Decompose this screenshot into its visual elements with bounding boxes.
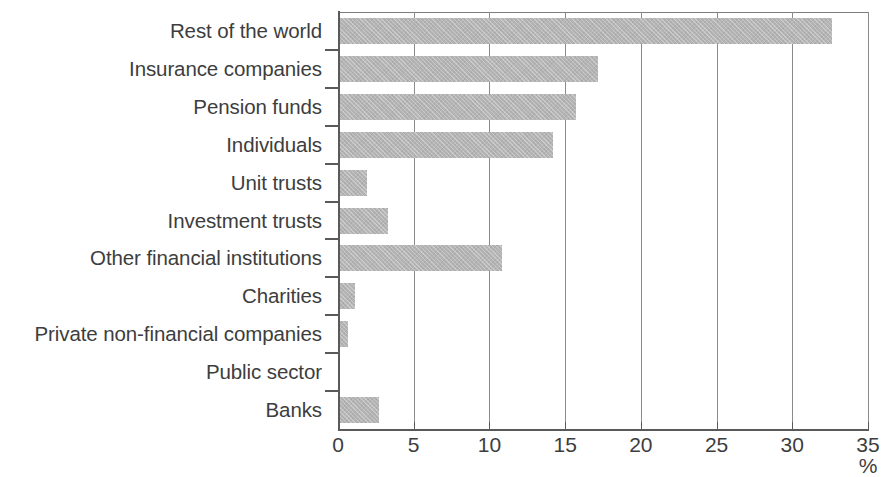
x-axis-tick-label: 25 [705, 434, 728, 455]
y-axis-tick [325, 352, 338, 354]
category-label: Investment trusts [168, 211, 322, 232]
x-axis-tick-label: 5 [408, 434, 420, 455]
x-axis-tick-label: 35 [856, 434, 879, 455]
category-label: Insurance companies [129, 59, 322, 80]
x-axis-tick-35 [868, 422, 869, 430]
y-axis-tick [325, 49, 338, 51]
y-axis-tick [325, 390, 338, 392]
plot-area [338, 12, 868, 429]
category-label: Rest of the world [170, 21, 322, 42]
category-label: Banks [266, 400, 322, 421]
gridline-30 [792, 12, 793, 429]
category-label-column: Rest of the worldInsurance companiesPens… [0, 0, 330, 429]
bar [338, 18, 832, 44]
bar [338, 132, 553, 158]
x-axis-tick-5 [414, 422, 415, 430]
x-axis-tick-label: 30 [781, 434, 804, 455]
bar [338, 283, 355, 309]
category-label: Other financial institutions [90, 248, 322, 269]
x-axis-tick-label: 10 [478, 434, 501, 455]
x-axis-tick-0 [338, 422, 339, 430]
gridline-25 [717, 12, 718, 429]
x-axis-tick-10 [489, 422, 490, 430]
x-axis-line [338, 429, 869, 431]
bar [338, 245, 502, 271]
bar [338, 94, 576, 120]
x-axis-tick-30 [792, 422, 793, 430]
gridline-20 [641, 12, 642, 429]
category-label: Pension funds [193, 97, 322, 118]
x-axis-tick-label: 0 [332, 434, 344, 455]
bar [338, 208, 388, 234]
x-axis-tick-label: 15 [553, 434, 576, 455]
x-axis-tick-label: 20 [629, 434, 652, 455]
category-label: Unit trusts [231, 173, 322, 194]
y-axis-tick [325, 276, 338, 278]
y-axis-tick [325, 125, 338, 127]
x-axis-tick-15 [565, 422, 566, 430]
y-axis-tick [325, 314, 338, 316]
bar [338, 397, 379, 423]
x-axis-tick-20 [641, 422, 642, 430]
category-label: Charities [242, 286, 322, 307]
bar [338, 56, 598, 82]
category-label: Private non-financial companies [35, 324, 322, 345]
category-label: Individuals [226, 135, 322, 156]
bar [338, 170, 367, 196]
y-axis-tick [325, 201, 338, 203]
x-axis-tick-25 [717, 422, 718, 430]
gridline-35 [868, 12, 869, 429]
y-axis-tick [325, 87, 338, 89]
y-axis-tick [325, 163, 338, 165]
x-axis-unit-label: % [859, 455, 878, 476]
y-axis-tick [325, 238, 338, 240]
category-label: Public sector [206, 362, 322, 383]
y-axis-line [338, 11, 340, 430]
